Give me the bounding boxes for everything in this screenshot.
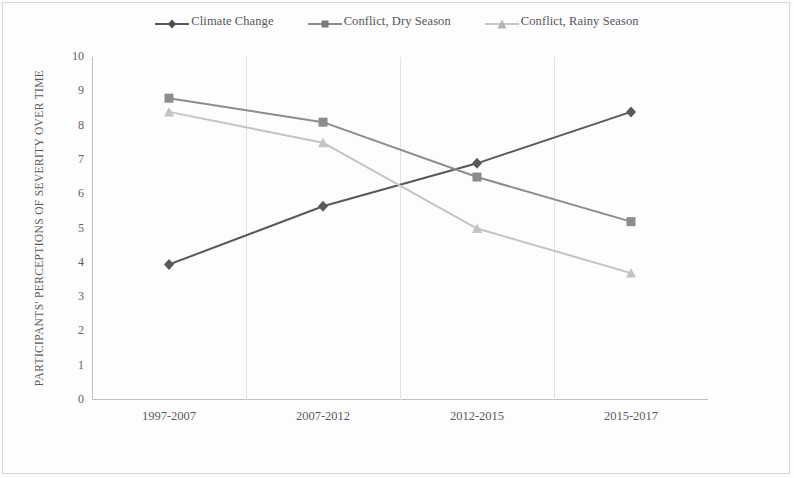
y-tick-label-5: 5 <box>58 221 84 236</box>
x-tick-label-2007-2012: 2007-2012 <box>253 409 393 424</box>
legend-label-climate-change: Climate Change <box>191 14 273 29</box>
data-point-marker <box>319 118 328 127</box>
chart-figure: Climate Change Conflict, Dry Season Conf… <box>0 0 794 478</box>
legend-item-conflict-dry-season[interactable]: Conflict, Dry Season <box>308 14 451 29</box>
y-tick-label-10: 10 <box>58 49 84 64</box>
triangle-marker-icon <box>485 16 519 28</box>
data-point-marker <box>473 173 482 182</box>
data-point-marker <box>164 259 174 270</box>
x-tick-label-2015-2017: 2015-2017 <box>561 409 701 424</box>
legend-item-conflict-rainy-season[interactable]: Conflict, Rainy Season <box>485 14 639 29</box>
series-conflict-rainy-season <box>164 107 636 278</box>
y-tick-label-9: 9 <box>58 83 84 98</box>
y-tick-label-4: 4 <box>58 255 84 270</box>
square-marker-icon <box>308 16 342 28</box>
data-point-marker <box>472 224 482 234</box>
data-point-marker <box>318 201 328 212</box>
series-line <box>169 112 631 265</box>
y-tick-label-3: 3 <box>58 289 84 304</box>
series-conflict-dry-season <box>165 94 636 226</box>
x-tick-label-1997-2007: 1997-2007 <box>99 409 239 424</box>
y-tick-label-0: 0 <box>58 392 84 407</box>
legend-label-conflict-rainy-season: Conflict, Rainy Season <box>521 14 639 29</box>
data-point-marker <box>165 94 174 103</box>
y-tick-label-8: 8 <box>58 118 84 133</box>
series-climate-change <box>164 106 636 270</box>
x-tick-label-2012-2015: 2012-2015 <box>407 409 547 424</box>
data-point-marker <box>472 158 482 169</box>
legend-item-climate-change[interactable]: Climate Change <box>155 14 273 29</box>
plot-area <box>92 57 708 400</box>
data-point-marker <box>627 217 636 226</box>
data-series-layer <box>92 57 708 400</box>
diamond-marker-icon <box>155 16 189 28</box>
chart-legend: Climate Change Conflict, Dry Season Conf… <box>0 14 794 29</box>
y-axis-title: PARTICIPANTS' PERCEPTIONS OF SEVERITY OV… <box>33 63 45 393</box>
y-tick-label-2: 2 <box>58 323 84 338</box>
y-tick-label-6: 6 <box>58 186 84 201</box>
y-tick-label-7: 7 <box>58 152 84 167</box>
legend-label-conflict-dry-season: Conflict, Dry Season <box>344 14 451 29</box>
series-line <box>169 98 631 221</box>
y-tick-label-1: 1 <box>58 358 84 373</box>
data-point-marker <box>626 106 636 117</box>
